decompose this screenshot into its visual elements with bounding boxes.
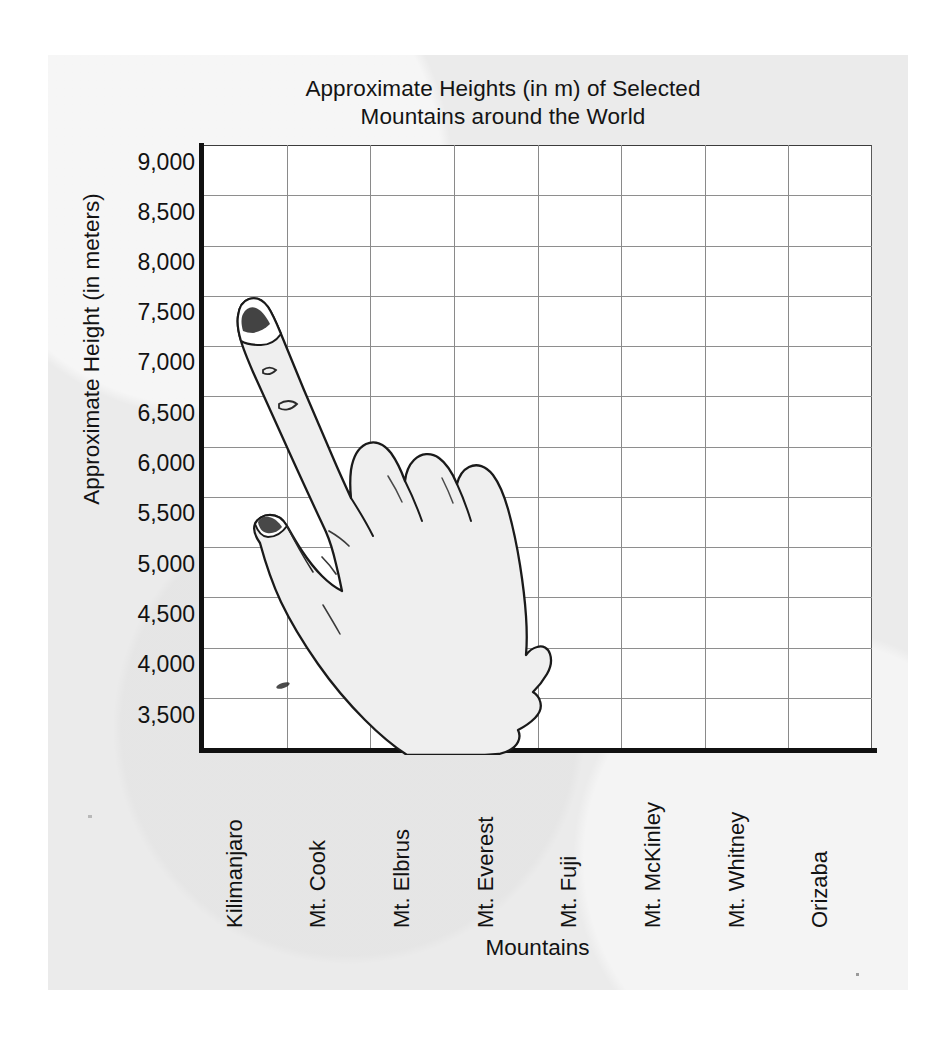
x-axis-line (199, 748, 877, 753)
scan-speck (856, 973, 859, 976)
y-tick-label: 6,000 (75, 452, 195, 475)
chart-plot-area (203, 145, 872, 748)
scan-speck (88, 815, 92, 818)
x-tick-slot: Mt. Cook (287, 755, 371, 930)
y-tick-label: 9,000 (75, 151, 195, 174)
x-tick-slot: Mt. Everest (454, 755, 538, 930)
x-tick-label: Mt. McKinley (643, 802, 663, 928)
y-tick-label: 7,500 (75, 301, 195, 324)
y-tick-label: 5,500 (75, 502, 195, 525)
x-tick-slot: Orizaba (788, 755, 872, 930)
x-tick-label: Mt. Fuji (559, 856, 579, 928)
x-tick-label: Mt. Whitney (727, 812, 747, 928)
y-tick-label: 6,500 (75, 402, 195, 425)
gridline-vertical (370, 145, 371, 748)
x-tick-slot: Mt. Fuji (538, 755, 622, 930)
chart-title: Approximate Heights (in m) of Selected M… (203, 75, 803, 131)
x-tick-slot: Mt. McKinley (621, 755, 705, 930)
gridline-vertical (705, 145, 706, 748)
x-tick-slot: Mt. Elbrus (370, 755, 454, 930)
y-tick-label: 7,000 (75, 351, 195, 374)
y-tick-label: 5,000 (75, 553, 195, 576)
x-tick-label: Kilimanjaro (225, 819, 245, 928)
y-tick-label: 4,500 (75, 603, 195, 626)
x-tick-label: Mt. Cook (308, 840, 328, 928)
y-axis-line (199, 143, 204, 752)
x-tick-label: Mt. Everest (476, 817, 496, 928)
y-tick-label: 3,500 (75, 704, 195, 727)
y-tick-label: 8,000 (75, 251, 195, 274)
y-tick-label: 4,000 (75, 653, 195, 676)
gridline-vertical (621, 145, 622, 748)
x-axis-title: Mountains (203, 935, 872, 961)
x-tick-slot: Kilimanjaro (203, 755, 287, 930)
x-tick-label: Mt. Elbrus (392, 829, 412, 928)
gridline-vertical (454, 145, 455, 748)
chart-title-line-1: Approximate Heights (in m) of Selected (203, 75, 803, 103)
gridline-vertical (538, 145, 539, 748)
x-axis-tick-labels: Kilimanjaro Mt. Cook Mt. Elbrus Mt. Ever… (203, 755, 872, 930)
x-tick-slot: Mt. Whitney (705, 755, 789, 930)
y-tick-label: 8,500 (75, 201, 195, 224)
x-tick-label: Orizaba (810, 851, 830, 928)
gridline-vertical (788, 145, 789, 748)
worksheet-page: Approximate Heights (in m) of Selected M… (48, 55, 908, 990)
y-axis-tick-labels: 9,000 8,500 8,000 7,500 7,000 6,500 6,00… (73, 145, 195, 748)
gridline-vertical (287, 145, 288, 748)
chart-title-line-2: Mountains around the World (203, 103, 803, 131)
